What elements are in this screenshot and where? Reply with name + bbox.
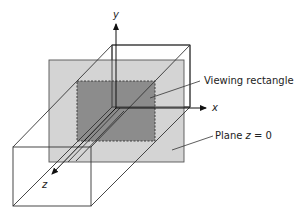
axis-label-x: x <box>211 102 218 113</box>
plane-label: Plane z = 0 <box>215 130 272 141</box>
axis-label-y: y <box>112 9 120 20</box>
viewing-volume-diagram: y x z Viewing rectangle Plane z = 0 <box>0 0 295 217</box>
plane-label-suffix: = 0 <box>251 130 272 141</box>
axis-label-z: z <box>41 179 48 190</box>
viewing-rectangle-label: Viewing rectangle <box>204 75 294 86</box>
plane-label-prefix: Plane <box>215 130 246 141</box>
